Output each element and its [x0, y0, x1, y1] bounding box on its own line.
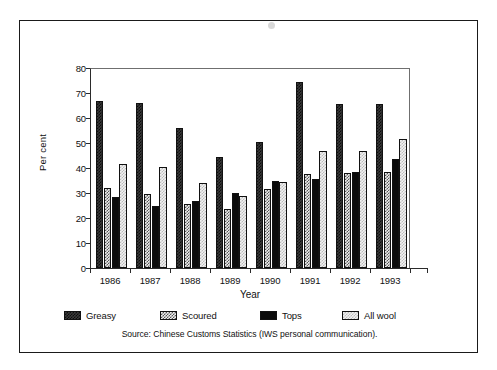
bar-all-wool-1992	[359, 151, 366, 269]
bar-greasy-1987	[136, 103, 143, 268]
legend-label: Tops	[282, 310, 302, 321]
bar-scoured-1992	[344, 173, 351, 268]
bar-tops-1991	[312, 179, 319, 268]
y-tick-label: 10	[60, 239, 86, 248]
bar-group-1993	[376, 68, 407, 268]
x-tick-label-1988: 1988	[170, 275, 210, 286]
x-tick-label-1987: 1987	[130, 275, 170, 286]
legend-label: Scoured	[182, 310, 217, 321]
legend-swatch-icon	[64, 311, 81, 320]
x-tick-label-1990: 1990	[250, 275, 290, 286]
bar-greasy-1986	[96, 101, 103, 269]
bar-scoured-1991	[304, 174, 311, 268]
legend-item-scoured: Scoured	[160, 309, 217, 322]
bar-all-wool-1990	[279, 182, 286, 268]
bar-group-1989	[216, 68, 247, 268]
bar-greasy-1991	[296, 82, 303, 268]
bar-scoured-1986	[104, 188, 111, 268]
bar-tops-1987	[152, 206, 159, 269]
bar-tops-1990	[272, 181, 279, 269]
x-axis-line	[90, 268, 427, 269]
x-tick-label-1993: 1993	[370, 275, 410, 286]
x-tick-mark	[330, 268, 331, 273]
y-axis-title: Per cent	[37, 113, 48, 193]
x-tick-label-1991: 1991	[290, 275, 330, 286]
source-note: Source: Chinese Customs Statistics (IWS …	[20, 329, 479, 339]
y-tick-label: 20	[60, 214, 86, 223]
bar-tops-1992	[352, 172, 359, 268]
x-tick-mark	[210, 268, 211, 273]
bar-tops-1988	[192, 201, 199, 269]
bar-group-1987	[136, 68, 167, 268]
bar-scoured-1993	[384, 172, 391, 268]
chart-legend: GreasyScouredTopsAll wool	[64, 309, 444, 323]
y-tick-label: 40	[60, 164, 86, 173]
y-tick-label: 80	[60, 64, 86, 73]
x-tick-mark	[427, 268, 428, 273]
legend-label: Greasy	[86, 310, 116, 321]
chart-plot-area: Per cent 01020304050607080 1986198719881…	[20, 21, 479, 354]
legend-swatch-icon	[342, 311, 359, 320]
x-axis-title: Year	[90, 289, 410, 300]
x-tick-mark	[130, 268, 131, 273]
x-tick-mark	[410, 268, 411, 273]
x-tick-mark	[250, 268, 251, 273]
bar-group-1988	[176, 68, 207, 268]
x-tick-label-1989: 1989	[210, 275, 250, 286]
bar-all-wool-1991	[319, 151, 326, 269]
bar-tops-1993	[392, 159, 399, 268]
y-tick-label: 60	[60, 114, 86, 123]
bar-scoured-1990	[264, 189, 271, 268]
x-tick-mark	[90, 268, 91, 273]
legend-swatch-icon	[260, 311, 277, 320]
bar-all-wool-1989	[239, 196, 246, 269]
y-tick-label: 0	[60, 264, 86, 273]
x-tick-mark	[370, 268, 371, 273]
figure-frame: Per cent 01020304050607080 1986198719881…	[19, 20, 478, 353]
bar-greasy-1989	[216, 157, 223, 268]
legend-label: All wool	[364, 310, 396, 321]
bar-scoured-1988	[184, 204, 191, 268]
bar-greasy-1992	[336, 104, 343, 268]
y-tick-label: 70	[60, 89, 86, 98]
bars-layer	[90, 68, 410, 268]
bar-scoured-1987	[144, 194, 151, 268]
bar-all-wool-1988	[199, 183, 206, 268]
bar-all-wool-1986	[119, 164, 126, 268]
bar-group-1986	[96, 68, 127, 268]
bar-greasy-1990	[256, 142, 263, 268]
x-tick-label-1986: 1986	[90, 275, 130, 286]
legend-item-all-wool: All wool	[342, 309, 396, 322]
y-tick-label: 30	[60, 189, 86, 198]
legend-item-tops: Tops	[260, 309, 302, 322]
x-tick-mark	[170, 268, 171, 273]
legend-swatch-icon	[160, 311, 177, 320]
x-tick-mark	[290, 268, 291, 273]
bar-greasy-1993	[376, 104, 383, 268]
bar-greasy-1988	[176, 128, 183, 268]
bar-all-wool-1993	[399, 139, 406, 268]
bar-group-1990	[256, 68, 287, 268]
bar-tops-1986	[112, 197, 119, 268]
legend-item-greasy: Greasy	[64, 309, 116, 322]
bar-scoured-1989	[224, 209, 231, 268]
bar-group-1991	[296, 68, 327, 268]
bar-group-1992	[336, 68, 367, 268]
bar-tops-1989	[232, 193, 239, 268]
bar-all-wool-1987	[159, 167, 166, 268]
x-tick-label-1992: 1992	[330, 275, 370, 286]
y-tick-label: 50	[60, 139, 86, 148]
